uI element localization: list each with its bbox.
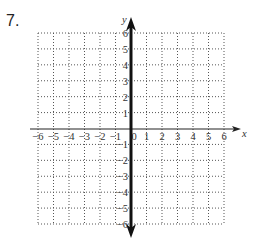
x-tick-label: 6: [221, 131, 226, 142]
x-tick-label: −3: [79, 131, 90, 142]
y-tick-label: −2: [117, 155, 128, 166]
x-tick-label: −6: [32, 131, 43, 142]
x-tick-label: 4: [190, 131, 196, 142]
x-tick-label: 5: [206, 131, 211, 142]
x-tick-label: −5: [48, 131, 59, 142]
y-tick-label: 2: [123, 92, 128, 103]
y-tick-label: −5: [117, 203, 128, 214]
x-tick-label: 1: [144, 131, 149, 142]
y-tick-label: 4: [123, 60, 129, 71]
y-tick-label: 5: [123, 44, 128, 55]
x-tick-label: −2: [94, 131, 105, 142]
y-tick-label: −4: [117, 187, 129, 198]
x-tick-label: −4: [63, 131, 75, 142]
y-tick-label: 3: [123, 76, 128, 87]
coordinate-graph: −6−5−4−3−2−10123456 123456−1−2−3−4−5−6 x…: [0, 0, 257, 239]
y-tick-label: 1: [123, 108, 128, 119]
x-axis-label: x: [241, 128, 247, 139]
y-tick-label: −3: [117, 171, 128, 182]
y-axis-label: y: [121, 14, 127, 25]
y-tick-label: −1: [117, 139, 128, 150]
x-tick-label: 3: [175, 131, 180, 142]
x-tick-label: 2: [159, 131, 164, 142]
